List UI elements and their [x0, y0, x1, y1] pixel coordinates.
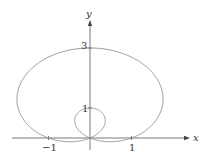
polar-plot: y x 3 1 −1 1: [0, 0, 204, 155]
tick-label-y-1: 1: [82, 103, 88, 114]
y-axis-label: y: [85, 8, 92, 19]
tick-label-x-neg1: −1: [42, 142, 57, 153]
tick-label-y-3: 3: [81, 40, 87, 51]
y-axis-arrow-icon: [88, 20, 92, 26]
x-axis-label: x: [193, 132, 199, 143]
tick-label-x-1: 1: [129, 142, 135, 153]
x-axis-arrow-icon: [184, 136, 190, 140]
